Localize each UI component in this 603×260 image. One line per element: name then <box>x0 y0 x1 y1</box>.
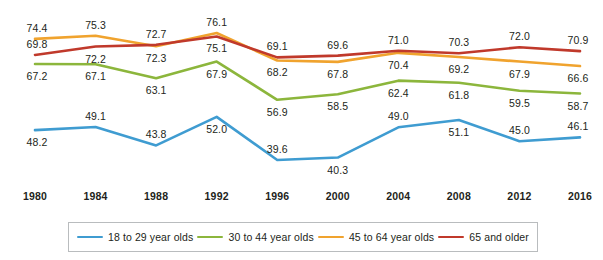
data-label: 67.2 <box>27 71 48 82</box>
data-label: 62.4 <box>388 87 409 98</box>
legend-swatch-icon <box>438 236 464 239</box>
data-label: 49.0 <box>388 111 409 122</box>
data-label: 58.7 <box>568 100 589 111</box>
data-label: 43.8 <box>146 129 167 140</box>
line-chart: 48.249.143.852.039.640.349.051.145.046.1… <box>0 0 603 260</box>
data-label: 67.9 <box>206 68 227 79</box>
legend-item-label: 18 to 29 year olds <box>108 231 193 243</box>
data-label: 68.2 <box>267 67 288 78</box>
plot-area: 48.249.143.852.039.640.349.051.145.046.1… <box>0 0 603 185</box>
data-label: 46.1 <box>568 121 589 132</box>
data-label: 56.9 <box>267 107 288 118</box>
data-label: 76.1 <box>206 17 227 28</box>
data-label: 66.6 <box>568 73 589 84</box>
data-label: 63.1 <box>146 85 167 96</box>
legend-swatch-icon <box>318 236 344 239</box>
data-label: 69.1 <box>267 41 288 52</box>
legend-item-label: 30 to 44 year olds <box>228 231 313 243</box>
legend-item[interactable]: 18 to 29 year olds <box>77 231 193 243</box>
data-label: 48.2 <box>27 137 48 148</box>
data-label: 39.6 <box>267 144 288 155</box>
data-label: 51.1 <box>448 127 469 138</box>
legend-item-label: 65 and older <box>469 231 529 243</box>
x-tick-label: 2008 <box>447 190 471 202</box>
data-label: 70.4 <box>388 60 409 71</box>
x-tick-label: 1996 <box>265 190 289 202</box>
data-label: 72.3 <box>146 53 167 64</box>
data-label: 52.0 <box>206 124 227 135</box>
legend-item[interactable]: 30 to 44 year olds <box>197 231 313 243</box>
data-label: 75.1 <box>206 43 227 54</box>
x-axis: 1980198419881992199620002004200820122016 <box>0 185 603 213</box>
data-label: 70.9 <box>568 35 589 46</box>
series-line-2 <box>35 62 580 100</box>
x-tick-label: 1992 <box>205 190 229 202</box>
legend-item-label: 45 to 64 year olds <box>349 231 434 243</box>
legend-item[interactable]: 65 and older <box>438 231 529 243</box>
data-label: 70.3 <box>448 37 469 48</box>
data-label: 67.1 <box>85 71 106 82</box>
legend-swatch-icon <box>197 236 223 239</box>
x-tick-label: 2000 <box>326 190 350 202</box>
data-label: 69.8 <box>27 39 48 50</box>
chart-legend: 18 to 29 year olds30 to 44 year olds45 t… <box>68 222 538 252</box>
data-label: 40.3 <box>327 164 348 175</box>
legend-swatch-icon <box>77 236 103 239</box>
x-tick-label: 1984 <box>83 190 107 202</box>
x-tick-label: 2016 <box>568 190 592 202</box>
data-label: 71.0 <box>388 34 409 45</box>
data-label: 72.2 <box>85 53 106 64</box>
x-tick-label: 1988 <box>144 190 168 202</box>
data-label: 72.7 <box>146 29 167 40</box>
legend-item[interactable]: 45 to 64 year olds <box>318 231 434 243</box>
data-label: 74.4 <box>27 23 48 34</box>
data-label: 49.1 <box>85 111 106 122</box>
data-label: 69.6 <box>327 39 348 50</box>
x-tick-label: 1980 <box>23 190 47 202</box>
data-label: 72.0 <box>509 31 530 42</box>
x-tick-label: 2012 <box>507 190 531 202</box>
data-label: 58.5 <box>327 101 348 112</box>
series-line-1 <box>35 117 580 160</box>
data-label: 75.3 <box>85 20 106 31</box>
data-label: 67.9 <box>509 68 530 79</box>
data-label: 45.0 <box>509 125 530 136</box>
data-label: 69.2 <box>448 64 469 75</box>
x-tick-label: 2004 <box>386 190 410 202</box>
data-label: 59.5 <box>509 98 530 109</box>
data-label: 67.8 <box>327 69 348 80</box>
data-label: 61.8 <box>448 90 469 101</box>
